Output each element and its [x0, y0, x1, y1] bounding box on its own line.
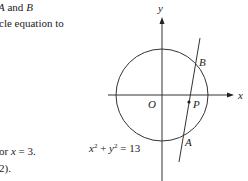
- y-axis-label: y: [157, 2, 163, 14]
- x-axis-arrow-icon: [227, 93, 234, 98]
- point-b-label: B: [199, 56, 206, 68]
- origin-label: O: [148, 98, 156, 110]
- x-axis-label: x: [237, 89, 243, 101]
- point-p-label: P: [192, 98, 200, 110]
- point-a-label: A: [184, 136, 192, 148]
- circle-equation: x2 + y2 = 13: [88, 142, 141, 154]
- point-p-dot: [187, 100, 190, 103]
- circle-diagram: y x O B P A x2 + y2 = 13: [0, 0, 248, 181]
- y-axis-arrow-icon: [160, 17, 165, 24]
